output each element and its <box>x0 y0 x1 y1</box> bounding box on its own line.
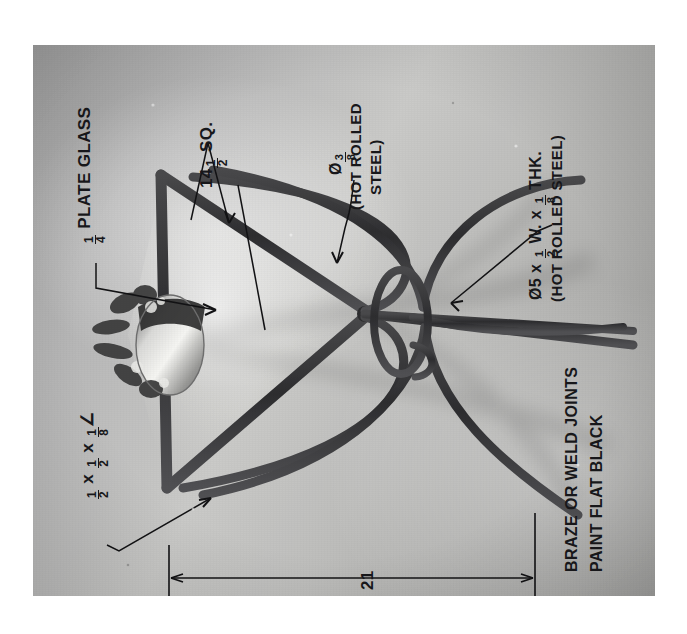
angle-x-1: x <box>78 469 97 489</box>
annotation-rod-material: (HOT ROLLED <box>348 103 365 210</box>
square-dim-suffix: SQ. <box>197 122 216 158</box>
annotation-square-dimension: 14 1 2 SQ. <box>197 122 229 188</box>
annotation-angle-iron: 1 2 x 1 2 x 1 8 ∠ <box>78 411 110 500</box>
fraction-half-a: 1 2 <box>87 490 111 500</box>
rod-dia-symbol: Ø <box>327 162 344 175</box>
rod-material-line1: (HOT ROLLED <box>348 103 365 210</box>
annotation-ring-material: (HOT ROLLED STEEL) <box>549 135 566 302</box>
angle-x-2: x <box>78 438 97 458</box>
square-dim-whole: 14 <box>197 168 216 188</box>
note-line-1: BRAZE OR WELD JOINTS <box>563 367 581 572</box>
annotation-rod-material-2: STEEL) <box>368 139 385 195</box>
plate-glass-label: PLATE GLASS <box>75 107 94 234</box>
annotation-note-braze: BRAZE OR WELD JOINTS <box>563 367 581 572</box>
ring-spec-suffix: THK. <box>527 151 544 195</box>
angle-iron-symbol: ∠ <box>78 411 97 426</box>
fraction-half: 1 2 <box>206 158 230 168</box>
ring-spec-prefix: Ø5 x <box>527 259 544 300</box>
fraction-half-b: 1 2 <box>87 458 111 468</box>
ring-spec-mid: W. x <box>527 205 544 248</box>
fraction-eighth-c: 1 8 <box>87 427 111 437</box>
note-line-2: PAINT FLAT BLACK <box>588 414 606 572</box>
photograph <box>33 45 655 596</box>
ring-material-line: (HOT ROLLED STEEL) <box>549 135 566 302</box>
screenshot-root: 1 4 PLATE GLASS 14 1 2 SQ. Ø 3 8 (HOT RO… <box>0 0 687 634</box>
rod-material-line2: STEEL) <box>368 139 385 195</box>
fraction-quarter: 1 4 <box>84 235 108 245</box>
vignette-overlay <box>33 45 655 596</box>
annotation-dimension-value: 21 <box>358 570 377 590</box>
annotation-note-paint: PAINT FLAT BLACK <box>588 414 606 572</box>
annotation-plate-glass: 1 4 PLATE GLASS <box>75 107 107 245</box>
dimension-21-label: 21 <box>358 570 377 590</box>
